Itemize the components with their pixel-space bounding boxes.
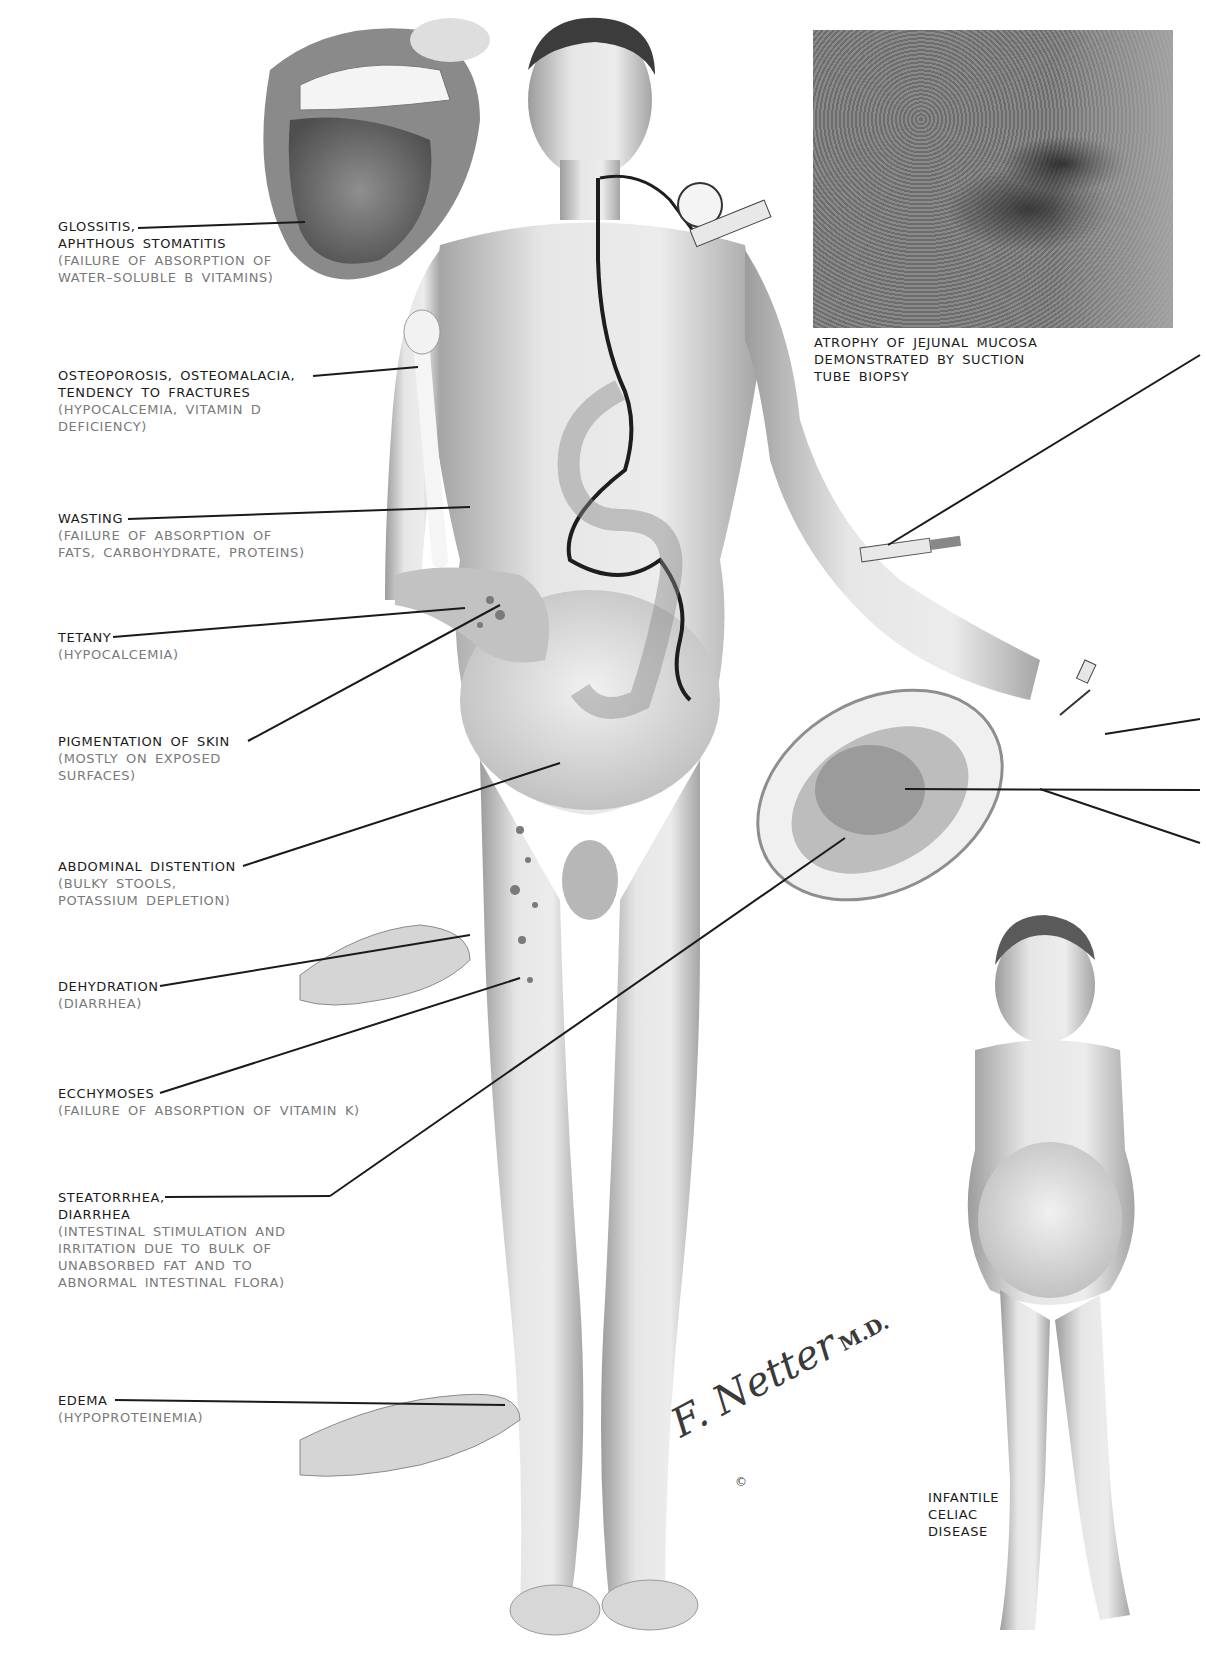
label-detail: (FAILURE OF ABSORPTION OF FATS, CARBOHYD… [58,527,305,561]
copyright-mark: © [735,1475,747,1489]
label-title: ABDOMINAL DISTENTION [58,858,236,875]
label-steatorrhea: STEATORRHEA, DIARRHEA (INTESTINAL STIMUL… [58,1189,286,1291]
label-title: PIGMENTATION OF SKIN [58,733,230,750]
label-detail: (HYPOCALCEMIA) [58,646,179,663]
label-title: OSTEOPOROSIS, OSTEOMALACIA, TENDENCY TO … [58,367,295,401]
syringe [860,536,961,562]
label-title: GLOSSITIS, APHTHOUS STOMATITIS [58,218,274,252]
pressing-hand [300,1394,520,1476]
label-title: ECCHYMOSES [58,1085,360,1102]
label-edema: EDEMA (HYPOPROTEINEMIA) [58,1392,203,1426]
caption-jejunal-atrophy: ATROPHY OF JEJUNAL MUCOSA DEMONSTRATED B… [814,334,1037,385]
label-tetany: TETANY (HYPOCALCEMIA) [58,629,179,663]
pinching-hand [300,925,470,1005]
label-dehydration: DEHYDRATION (DIARRHEA) [58,978,159,1012]
label-glossitis: GLOSSITIS, APHTHOUS STOMATITIS (FAILURE … [58,218,274,286]
label-title: STEATORRHEA, DIARRHEA [58,1189,286,1223]
label-osteoporosis: OSTEOPOROSIS, OSTEOMALACIA, TENDENCY TO … [58,367,295,435]
bedpan-inset [720,648,1040,943]
label-detail: (MOSTLY ON EXPOSED SURFACES) [58,750,230,784]
caption-infantile-celiac: INFANTILE CELIAC DISEASE [928,1489,999,1540]
glossitis-inset [263,18,490,279]
label-pigmentation: PIGMENTATION OF SKIN (MOSTLY ON EXPOSED … [58,733,230,784]
label-title: DEHYDRATION [58,978,159,995]
jejunal-biopsy-micrograph [813,30,1173,328]
label-title: WASTING [58,510,305,527]
label-detail: (BULKY STOOLS, POTASSIUM DEPLETION) [58,875,236,909]
label-detail: (HYPOPROTEINEMIA) [58,1409,203,1426]
label-detail: (INTESTINAL STIMULATION AND IRRITATION D… [58,1223,286,1291]
label-detail: (FAILURE OF ABSORPTION OF WATER–SOLUBLE … [58,252,274,286]
label-detail: (HYPOCALCEMIA, VITAMIN D DEFICIENCY) [58,401,295,435]
label-title: TETANY [58,629,179,646]
label-ecchymoses: ECCHYMOSES (FAILURE OF ABSORPTION OF VIT… [58,1085,360,1119]
label-detail: (DIARRHEA) [58,995,159,1012]
label-abdominal-distention: ABDOMINAL DISTENTION (BULKY STOOLS, POTA… [58,858,236,909]
label-detail: (FAILURE OF ABSORPTION OF VITAMIN K) [58,1102,360,1119]
label-title: EDEMA [58,1392,203,1409]
label-wasting: WASTING (FAILURE OF ABSORPTION OF FATS, … [58,510,305,561]
